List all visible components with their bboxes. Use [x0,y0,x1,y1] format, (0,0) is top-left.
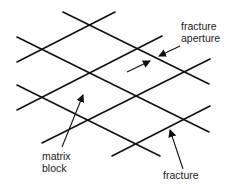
label-matrix-line2: block [42,162,71,174]
label-fracture-aperture: fracture aperture [181,20,220,44]
label-matrix-block: matrix block [42,150,71,174]
fracture-arrow-icon [170,130,183,169]
label-aperture-line2: aperture [181,32,220,44]
fracture-line [42,59,210,143]
fracture-line [112,106,210,156]
matrix-block-arrow-icon [62,95,83,147]
fracture-diagram: fracture aperture matrix block fracture [0,0,228,186]
label-aperture-line1: fracture [181,20,220,32]
label-fracture: fracture [163,169,199,181]
fracture-line [17,12,115,62]
aperture-arrow-right-icon [159,46,180,56]
aperture-arrow-left-icon [127,61,150,72]
label-matrix-line1: matrix [42,150,71,162]
fracture-line [17,37,209,132]
